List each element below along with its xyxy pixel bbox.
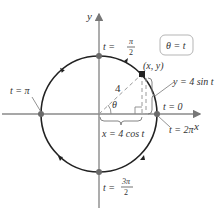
label-t-pi-over-2-den: 2 [129,48,133,57]
point-t-pi-over-2 [96,53,102,59]
x-brace [100,117,142,125]
t-two-pi-leader [158,116,170,127]
point-xy-label: (x, y) [143,60,164,72]
point-xy-marker [139,71,145,77]
angle-arc [108,105,111,114]
x-axis-label: x [193,120,199,132]
label-t-zero: t = 0 [163,101,183,112]
t-pi-leader [32,97,41,112]
point-t-zero [154,111,160,117]
y-label-leader [155,82,174,96]
y-axis-label: y [86,10,92,22]
y-equation-label: y = 4 sin t [172,76,214,87]
label-t-3pi-over-2-den: 2 [124,188,128,197]
radius-label: 4 [115,82,121,94]
label-t-pi-over-2-prefix: t = [103,41,115,52]
direction-arrow-icon [140,155,145,160]
point-t-3pi-over-2 [96,169,102,175]
x-equation-label: x = 4 cos t [101,128,145,139]
parametric-circle-diagram: x y θ 4 y = 4 sin t x = 4 cos t (x, y) t… [0,0,219,216]
label-t-two-pi: t = 2π [169,124,195,135]
radius-line [99,74,142,114]
label-t-pi: t = π [10,85,31,96]
theta-equals-t-label: θ = t [166,40,186,51]
label-t-pi-over-2-num: π [129,37,134,46]
label-t-3pi-over-2-num: 3π [121,177,131,186]
angle-label: θ [112,99,117,110]
label-t-3pi-over-2-prefix: t = [103,182,115,193]
right-angle-marker [135,107,142,114]
